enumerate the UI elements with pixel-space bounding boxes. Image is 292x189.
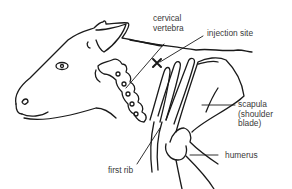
leader-injection <box>160 36 203 62</box>
eye <box>56 63 68 70</box>
label-cervical-line2: vertebra <box>153 24 184 34</box>
anatomy-diagram: cervical vertebra injection site scapula… <box>0 0 292 189</box>
label-humerus: humerus <box>225 151 258 161</box>
label-scapula: scapula (shoulder blade) <box>238 100 273 129</box>
first-rib-bone <box>151 122 162 172</box>
label-scapula-line3: blade) <box>238 119 273 129</box>
nostril <box>22 99 28 104</box>
humerus <box>170 128 218 164</box>
label-injection-site: injection site <box>207 29 253 39</box>
leader-cervical <box>126 44 164 88</box>
label-cervical-vertebra: cervical vertebra <box>153 14 184 33</box>
cervical-vertebrae <box>98 59 146 122</box>
jaw <box>22 108 116 119</box>
label-first-rib: first rib <box>108 166 133 176</box>
scapula <box>176 58 244 132</box>
neck-top <box>130 40 252 52</box>
injection-marker <box>153 59 161 67</box>
head-outline <box>16 21 162 104</box>
leader-first-rib <box>137 128 160 164</box>
bone-1 <box>150 68 170 123</box>
